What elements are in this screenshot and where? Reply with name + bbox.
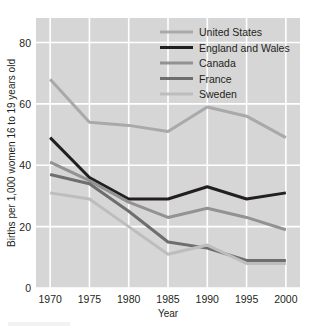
x-tick-label-1995: 1995: [235, 293, 259, 305]
x-tick-label-1975: 1975: [78, 293, 102, 305]
y-tick-label-80: 80: [19, 37, 31, 49]
line-chart: 020406080 1970197519801985199019952000 B…: [0, 0, 312, 332]
x-tick-label-1980: 1980: [117, 293, 141, 305]
y-tick-label-20: 20: [19, 221, 31, 233]
x-tick-label-1970: 1970: [38, 293, 62, 305]
legend-label-sweden: Sweden: [199, 88, 237, 100]
chart-figure: 020406080 1970197519801985199019952000 B…: [0, 0, 312, 332]
y-axis-title: Births per 1,000 women 16 to 19 years ol…: [6, 59, 17, 247]
x-axis-title: Year: [158, 308, 179, 319]
legend-label-united-states: United States: [199, 26, 262, 38]
x-tick-label-2000: 2000: [274, 293, 298, 305]
y-tick-label-60: 60: [19, 98, 31, 110]
x-tick-label-1990: 1990: [196, 293, 220, 305]
x-tick-label-1985: 1985: [156, 293, 180, 305]
legend-label-england-and-wales: England and Wales: [199, 42, 290, 54]
legend-label-canada: Canada: [199, 57, 236, 69]
y-tick-label-40: 40: [19, 159, 31, 171]
page-artifact-mark: [8, 322, 70, 326]
legend-label-france: France: [199, 73, 232, 85]
y-tick-label-0: 0: [25, 282, 31, 294]
